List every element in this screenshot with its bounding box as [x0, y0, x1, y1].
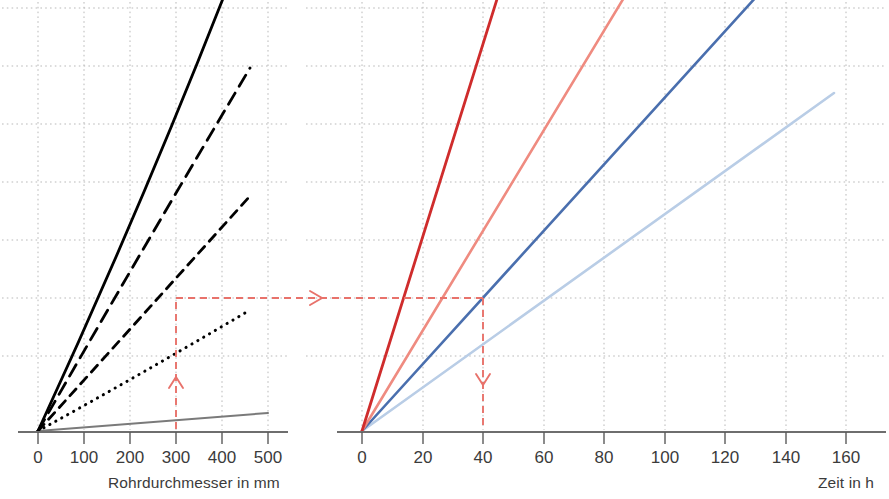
right-tick-label-3: 60 [535, 448, 554, 467]
right-axis-caption: Zeit in h [818, 474, 874, 492]
curve-solid-gray [38, 413, 268, 431]
left-curves [38, 0, 268, 431]
line-dark-red [362, 0, 498, 431]
left-tick-label-3: 300 [162, 448, 190, 467]
left-tick-label-4: 400 [208, 448, 236, 467]
curve-dotted-black [38, 310, 250, 431]
right-lines [362, 0, 834, 431]
right-tick-label-1: 20 [414, 448, 433, 467]
right-axis: 0 20 40 60 80 100 120 140 160 [337, 432, 886, 467]
curve-solid-black [38, 0, 224, 431]
left-tick-label-0: 0 [33, 448, 42, 467]
nomogram-figure: 0 100 200 300 400 500 [0, 0, 889, 499]
line-light-red [362, 0, 625, 431]
line-dark-blue [362, 0, 757, 431]
right-tick-label-2: 40 [474, 448, 493, 467]
left-grid [2, 2, 288, 430]
right-tick-label-5: 100 [651, 448, 679, 467]
right-tick-label-6: 120 [711, 448, 739, 467]
line-light-blue [362, 93, 834, 431]
left-tick-label-5: 500 [254, 448, 282, 467]
left-tick-label-2: 200 [116, 448, 144, 467]
left-tick-label-1: 100 [70, 448, 98, 467]
left-axis: 0 100 200 300 400 500 [18, 432, 288, 467]
right-tick-label-4: 80 [595, 448, 614, 467]
left-axis-caption: Rohrdurchmesser in mm [108, 474, 280, 492]
right-tick-label-7: 140 [772, 448, 800, 467]
right-tick-label-8: 160 [832, 448, 860, 467]
curve-long-dash-black [38, 68, 250, 431]
nomogram-canvas: 0 100 200 300 400 500 [0, 0, 889, 499]
right-tick-label-0: 0 [357, 448, 366, 467]
right-grid [306, 2, 886, 430]
curve-medium-dash-black [38, 196, 250, 431]
